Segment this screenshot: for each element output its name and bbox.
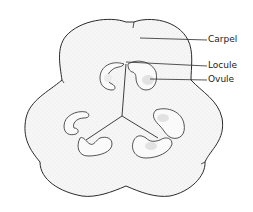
label-carpel: Carpel <box>208 35 237 44</box>
carpel-cross-section-diagram <box>0 0 253 212</box>
ovule-upper-right <box>142 75 154 85</box>
label-ovule: Ovule <box>208 75 234 84</box>
ovule-lower-right-a <box>157 114 169 122</box>
label-locule: Locule <box>208 61 237 70</box>
ovule-lower-right-b <box>145 142 157 150</box>
ovary-outline <box>25 19 223 196</box>
ovule-upper-left <box>104 74 112 82</box>
